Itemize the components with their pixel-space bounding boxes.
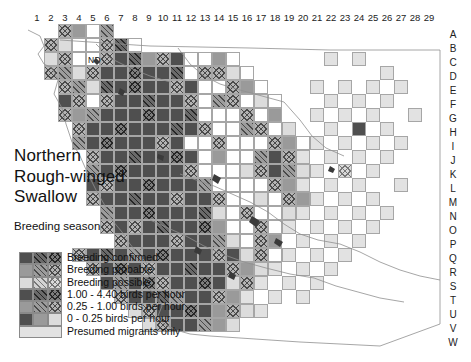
row-label-Q: Q — [446, 252, 460, 266]
column-axis-labels: 1234567891011121314151617181920212223242… — [0, 11, 471, 24]
column-label-12: 12 — [184, 11, 198, 24]
row-label-O: O — [446, 224, 460, 238]
row-label-U: U — [446, 308, 460, 322]
column-label-18: 18 — [268, 11, 282, 24]
row-label-J: J — [446, 154, 460, 168]
legend-swatch-solid — [19, 301, 33, 313]
column-label-26: 26 — [380, 11, 394, 24]
row-label-V: V — [446, 322, 460, 336]
row-label-B: B — [446, 42, 460, 56]
legend-swatch-diagonal — [33, 301, 47, 313]
legend-swatch-diagonal — [33, 252, 47, 264]
legend-label: Breeding possible — [67, 276, 150, 289]
legend-swatch-solid — [19, 289, 33, 301]
legend-label: 0 - 0.25 birds per hour — [67, 312, 170, 325]
row-label-N: N — [446, 210, 460, 224]
row-label-I: I — [446, 140, 460, 154]
column-label-23: 23 — [338, 11, 352, 24]
column-label-7: 7 — [114, 11, 128, 24]
column-label-5: 5 — [86, 11, 100, 24]
row-label-E: E — [446, 84, 460, 98]
title-line-1: Northern — [14, 146, 164, 167]
row-label-C: C — [446, 56, 460, 70]
row-label-R: R — [446, 266, 460, 280]
column-label-2: 2 — [44, 11, 58, 24]
legend-swatch-diagonal — [33, 264, 47, 276]
range-map-figure: 1234567891011121314151617181920212223242… — [0, 0, 471, 362]
column-label-17: 17 — [254, 11, 268, 24]
column-label-15: 15 — [226, 11, 240, 24]
row-label-S: S — [446, 280, 460, 294]
row-label-G: G — [446, 112, 460, 126]
legend-label: 1.00 - 4.40 birds per hour — [67, 288, 185, 301]
legend-swatch-crosshatch — [48, 277, 62, 289]
column-label-4: 4 — [72, 11, 86, 24]
legend-swatch-solid — [19, 277, 33, 289]
row-label-T: T — [446, 294, 460, 308]
figure-title-block: Northern Rough-winged Swallow Breeding s… — [14, 146, 164, 233]
legend-swatch-crosshatch — [48, 289, 62, 301]
column-label-21: 21 — [310, 11, 324, 24]
column-label-8: 8 — [128, 11, 142, 24]
legend-swatch-crosshatch — [48, 313, 62, 325]
column-label-27: 27 — [394, 11, 408, 24]
column-label-11: 11 — [170, 11, 184, 24]
row-label-P: P — [446, 238, 460, 252]
legend-label: Breeding confirmed — [67, 251, 158, 264]
row-label-H: H — [446, 126, 460, 140]
legend-label-migrants: Presumed migrants only — [67, 325, 180, 338]
legend-swatch-crosshatch — [48, 301, 62, 313]
legend-swatch-crosshatch — [48, 252, 62, 264]
column-label-24: 24 — [352, 11, 366, 24]
row-label-F: F — [446, 98, 460, 112]
row-label-D: D — [446, 70, 460, 84]
column-label-14: 14 — [212, 11, 226, 24]
column-label-20: 20 — [296, 11, 310, 24]
legend-swatch-solid — [19, 313, 33, 325]
row-label-A: A — [446, 28, 460, 42]
legend-swatch-migrants — [19, 326, 62, 338]
row-axis-labels: ABCDEFGHIJKLMNOPQRSTUVW — [446, 0, 466, 362]
figure-subtitle: Breeding season — [14, 219, 164, 233]
column-label-1: 1 — [30, 11, 44, 24]
legend-swatch-diagonal — [33, 313, 47, 325]
legend-label: Breeding probable — [67, 263, 153, 276]
column-label-16: 16 — [240, 11, 254, 24]
column-label-29: 29 — [422, 11, 436, 24]
column-label-3: 3 — [58, 11, 72, 24]
column-label-28: 28 — [408, 11, 422, 24]
column-label-9: 9 — [142, 11, 156, 24]
title-line-2: Rough-winged — [14, 167, 164, 188]
legend-swatch-solid — [19, 264, 33, 276]
column-label-22: 22 — [324, 11, 338, 24]
column-label-13: 13 — [198, 11, 212, 24]
column-label-6: 6 — [100, 11, 114, 24]
legend-swatch-diagonal — [33, 289, 47, 301]
title-line-3: Swallow — [14, 187, 164, 208]
column-label-19: 19 — [282, 11, 296, 24]
row-label-L: L — [446, 182, 460, 196]
row-label-K: K — [446, 168, 460, 182]
column-label-10: 10 — [156, 11, 170, 24]
row-label-W: W — [446, 336, 460, 350]
column-label-25: 25 — [366, 11, 380, 24]
legend-swatch-crosshatch — [48, 264, 62, 276]
legend-label: 0.25 - 1.00 birds per hour — [67, 300, 185, 313]
row-label-M: M — [446, 196, 460, 210]
legend-swatch-solid — [19, 252, 33, 264]
legend-swatch-diagonal — [33, 277, 47, 289]
